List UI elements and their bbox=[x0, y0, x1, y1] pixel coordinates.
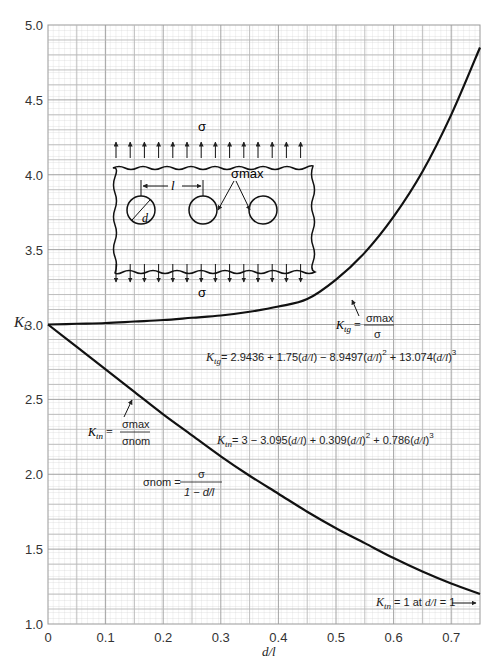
sigma-bottom-label: σ bbox=[198, 285, 206, 300]
sigma-max-inset-label: σmax bbox=[231, 166, 264, 181]
x-tick-label: 0.6 bbox=[385, 630, 403, 645]
dim-d-label: d bbox=[142, 211, 149, 225]
x-tick-label: 0.2 bbox=[154, 630, 172, 645]
y-tick-label: 3.0 bbox=[25, 318, 43, 333]
svg-text:σ: σ bbox=[374, 328, 381, 340]
x-axis-ticks: 00.10.20.30.40.50.60.7 bbox=[44, 630, 460, 645]
plot-area bbox=[48, 25, 480, 624]
y-axis-ticks: 1.01.52.02.53.03.54.04.55.0 bbox=[25, 18, 43, 632]
sigma-top-label: σ bbox=[198, 119, 206, 134]
y-tick-label: 4.0 bbox=[25, 168, 43, 183]
svg-text:1 − d/l: 1 − d/l bbox=[184, 486, 215, 498]
x-tick-label: 0.1 bbox=[97, 630, 115, 645]
x-tick-label: 0.7 bbox=[442, 630, 460, 645]
y-tick-label: 4.5 bbox=[25, 93, 43, 108]
svg-text:σmax: σmax bbox=[122, 418, 150, 430]
x-tick-label: 0.5 bbox=[327, 630, 345, 645]
y-tick-label: 2.5 bbox=[25, 392, 43, 407]
svg-text:σnom: σnom bbox=[122, 435, 150, 447]
dim-l-label: l bbox=[171, 178, 175, 193]
y-tick-label: 1.5 bbox=[25, 542, 43, 557]
x-tick-label: 0.3 bbox=[212, 630, 230, 645]
y-tick-label: 5.0 bbox=[25, 18, 43, 33]
x-tick-label: 0.4 bbox=[269, 630, 287, 645]
stress-concentration-chart: 1.01.52.02.53.03.54.04.55.0 00.10.20.30.… bbox=[0, 0, 496, 666]
x-tick-label: 0 bbox=[44, 630, 51, 645]
svg-text:σmax: σmax bbox=[366, 312, 394, 324]
major-grid bbox=[48, 25, 480, 624]
y-tick-label: 1.0 bbox=[25, 617, 43, 632]
y-tick-label: 2.0 bbox=[25, 467, 43, 482]
svg-text:σnom =: σnom = bbox=[143, 476, 181, 488]
svg-text:σ: σ bbox=[198, 468, 205, 480]
x-axis-label: d/l bbox=[262, 644, 276, 659]
y-tick-label: 3.5 bbox=[25, 243, 43, 258]
